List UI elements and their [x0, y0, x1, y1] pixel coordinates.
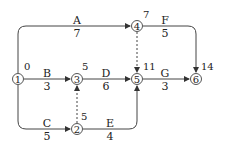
node-5-time: 11	[143, 62, 156, 72]
activity-a-name: A	[73, 15, 81, 26]
activity-g-duration: 3	[162, 81, 169, 92]
node-6-time: 14	[201, 62, 214, 72]
node-1-time: 0	[24, 62, 30, 72]
node-3-time: 5	[82, 62, 88, 72]
node-2: 2	[71, 123, 83, 135]
activity-d-duration: 6	[103, 81, 110, 92]
activity-b-name: B	[43, 68, 51, 79]
activity-a-duration: 7	[74, 28, 81, 39]
node-1: 1	[12, 73, 24, 85]
node-6: 6	[190, 73, 202, 85]
activity-f-name: F	[161, 15, 169, 26]
activity-e-name: E	[106, 118, 114, 129]
activity-c-duration: 5	[44, 131, 51, 142]
activity-b-duration: 3	[44, 81, 51, 92]
activity-g-name: G	[161, 68, 170, 79]
node-4-time: 7	[143, 10, 149, 20]
node-3: 3	[71, 73, 83, 85]
node-5: 5	[131, 73, 143, 85]
node-2-time: 5	[81, 112, 87, 122]
activity-f-duration: 5	[162, 28, 169, 39]
activity-d-name: D	[102, 68, 111, 79]
node-4: 4	[131, 20, 143, 32]
activity-e-duration: 4	[107, 131, 114, 142]
activity-c-name: C	[43, 118, 51, 129]
